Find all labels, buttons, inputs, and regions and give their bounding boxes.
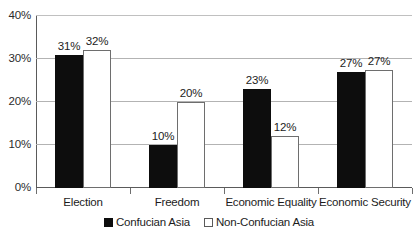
legend-label: Non-Confucian Asia (216, 216, 314, 228)
x-axis-tick (224, 188, 225, 194)
bar-freedom-confucian-asia (149, 145, 177, 188)
bar-value-label: 27% (368, 55, 390, 67)
x-axis-category-label: Economic Security (319, 196, 411, 208)
bar-value-label: 27% (340, 57, 362, 69)
outlined-square-icon (204, 218, 213, 227)
y-axis-tick-label: 20% (9, 95, 36, 107)
y-axis-tick-label: 0% (15, 181, 36, 193)
filled-square-icon (104, 218, 113, 227)
gridline-40pct: 40% (36, 15, 412, 16)
x-axis-category-label: Election (63, 196, 102, 208)
legend-item-non-confucian-asia: Non-Confucian Asia (204, 216, 314, 228)
legend-label: Confucian Asia (116, 216, 190, 228)
bar-economic-equality-non-confucian-asia (271, 136, 299, 188)
bar-value-label: 23% (246, 74, 268, 86)
bar-value-label: 31% (58, 40, 80, 52)
x-axis-tick (318, 188, 319, 194)
bar-value-label: 32% (86, 35, 108, 47)
x-axis-tick (130, 188, 131, 194)
bar-economic-equality-confucian-asia (243, 89, 271, 188)
y-axis-tick-label: 10% (9, 138, 36, 150)
y-axis-tick-label: 30% (9, 52, 36, 64)
bar-election-confucian-asia (55, 55, 83, 188)
x-axis-tick (36, 188, 37, 194)
chart-legend: Confucian Asia Non-Confucian Asia (0, 216, 418, 228)
bar-economic-security-confucian-asia (337, 72, 365, 188)
x-axis-category-label: Economic Equality (225, 196, 316, 208)
bar-economic-security-non-confucian-asia (365, 70, 393, 188)
x-axis-category-label: Freedom (155, 196, 200, 208)
bar-chart: 0%10%20%30%40%31%32%10%20%23%12%27%27% C… (0, 0, 418, 239)
bar-value-label: 20% (180, 87, 202, 99)
bar-election-non-confucian-asia (83, 50, 111, 188)
bar-value-label: 12% (274, 121, 296, 133)
bar-freedom-non-confucian-asia (177, 102, 205, 188)
plot-area: 0%10%20%30%40%31%32%10%20%23%12%27%27% (36, 16, 412, 188)
x-axis-tick (412, 188, 413, 194)
legend-item-confucian-asia: Confucian Asia (104, 216, 190, 228)
bar-value-label: 10% (152, 130, 174, 142)
y-axis-tick-label: 40% (9, 9, 36, 21)
